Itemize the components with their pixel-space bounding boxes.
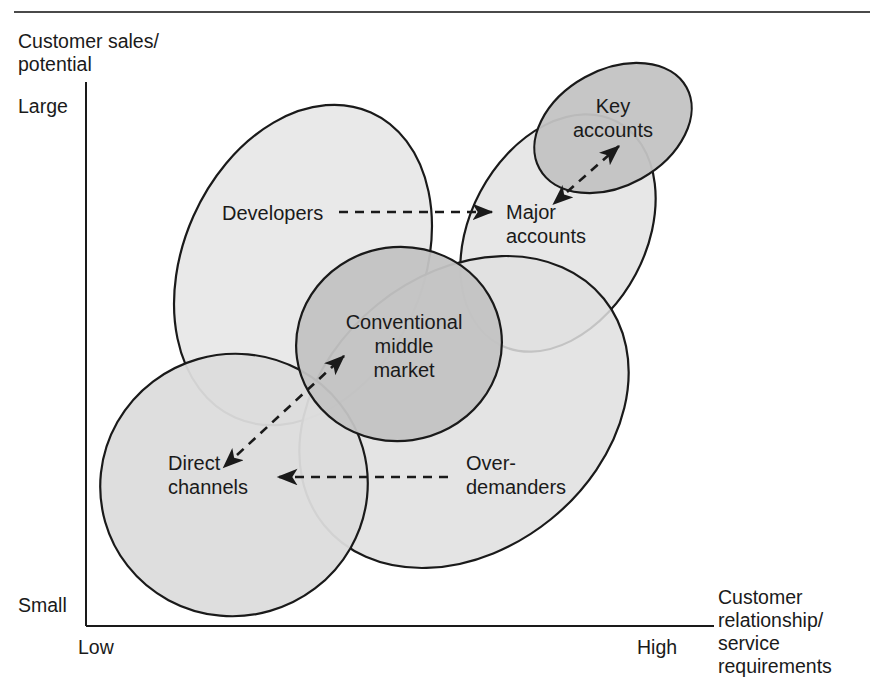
positioning-map-figure: Developers Major accounts Key accounts C… [0,0,879,699]
label-major-accounts-line1: Major [506,201,556,223]
y-axis-tick-large: Large [18,95,68,118]
y-axis-title: Customer sales/ potential [18,30,159,76]
x-axis-title: Customer relationship/ service requireme… [718,586,832,678]
label-conventional-line1: Conventional [346,311,463,333]
label-direct-channels-line1: Direct [168,452,221,474]
y-axis-tick-small: Small [18,594,67,617]
label-over-demanders-line1: Over- [466,452,516,474]
label-developers: Developers [222,202,323,224]
label-direct-channels-line2: channels [168,476,248,498]
x-axis-tick-low: Low [78,636,114,659]
x-axis-tick-high: High [637,636,677,659]
label-over-demanders-line2: demanders [466,476,566,498]
label-key-accounts-line2: accounts [573,119,653,141]
label-conventional-line3: market [373,359,435,381]
label-conventional-line2: middle [375,335,434,357]
label-key-accounts-line1: Key [596,95,630,117]
label-major-accounts-line2: accounts [506,225,586,247]
